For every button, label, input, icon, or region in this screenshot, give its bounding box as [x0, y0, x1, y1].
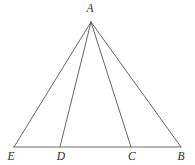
segment-a-c	[91, 22, 131, 147]
vertex-label-b: B	[177, 151, 184, 163]
segments-group	[14, 22, 181, 147]
vertex-label-c: C	[128, 151, 136, 163]
segment-a-e	[14, 22, 91, 147]
segment-a-b	[91, 22, 181, 147]
vertex-label-e: E	[7, 151, 14, 163]
vertex-label-d: D	[57, 151, 66, 163]
geometry-figure: A E D C B	[0, 0, 195, 165]
figure-canvas	[0, 0, 195, 165]
vertex-label-a: A	[86, 3, 93, 15]
segment-a-d	[60, 22, 91, 147]
